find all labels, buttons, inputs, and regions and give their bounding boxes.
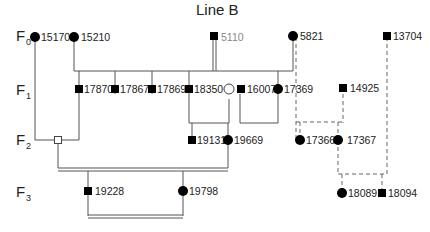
individual-16007[interactable]: 16007 [237,83,276,95]
male-filled-icon [148,85,156,93]
svg-text:17869: 17869 [157,83,186,95]
individual-18350[interactable]: 18350 [185,83,223,95]
male-unfilled-icon [55,137,62,144]
svg-text:17870: 17870 [84,83,113,95]
male-filled-icon [210,32,218,40]
male-filled-icon [75,85,83,93]
individual-15170[interactable]: 15170 [30,31,70,43]
svg-text:2: 2 [26,141,31,151]
svg-text:19669: 19669 [234,134,263,146]
male-filled-icon [237,85,245,93]
svg-text:19131: 19131 [197,134,226,146]
svg-text:13704: 13704 [393,30,422,42]
svg-text:3: 3 [26,193,31,203]
individual-14925[interactable]: 14925 [339,82,379,94]
female-filled-icon [223,135,233,145]
female-filled-icon [273,84,283,94]
pedigree-lines [35,37,293,218]
individual-18094[interactable]: 18094 [378,187,417,199]
male-filled-icon [188,136,196,144]
svg-text:17367: 17367 [347,134,376,146]
male-filled-icon [378,189,386,197]
svg-text:16007: 16007 [247,83,276,95]
individual-5110[interactable]: 5110 [210,31,244,43]
female-filled-icon [30,32,40,42]
svg-text:18350: 18350 [194,83,223,95]
individual-18089[interactable]: 18089 [337,187,377,199]
svg-text:17867: 17867 [120,83,149,95]
individual-17869[interactable]: 17869 [148,83,186,95]
svg-text:15170: 15170 [41,31,70,43]
female-filled-icon [333,135,343,145]
individual-15210[interactable]: 15210 [69,31,110,43]
svg-text:F: F [16,183,25,200]
individual-f1-open-female[interactable] [224,84,234,94]
individual-17367[interactable]: 17367 [333,134,376,146]
svg-text:14925: 14925 [350,82,379,94]
svg-text:F: F [16,131,25,148]
svg-text:19798: 19798 [189,185,218,197]
individual-17870[interactable]: 17870 [75,83,113,95]
male-filled-icon [383,32,391,40]
individual-19228[interactable]: 19228 [84,185,124,197]
generation-label-f3: F3 [16,183,31,203]
svg-text:1: 1 [26,91,31,101]
female-filled-icon [69,32,79,42]
individual-13704[interactable]: 13704 [383,30,422,42]
svg-text:15210: 15210 [81,31,110,43]
svg-text:17366: 17366 [306,134,335,146]
svg-text:F: F [16,81,25,98]
svg-text:19228: 19228 [95,185,124,197]
generation-label-f2: F2 [16,131,31,151]
female-filled-icon [178,186,188,196]
male-filled-icon [339,84,347,92]
individual-17369[interactable]: 17369 [273,83,313,95]
svg-text:5110: 5110 [221,31,244,43]
pedigree-dashed-lines [296,37,387,192]
individual-19131[interactable]: 19131 [188,134,226,146]
male-filled-icon [84,187,92,195]
svg-text:18094: 18094 [388,187,417,199]
diagram-title: Line B [196,1,239,18]
individual-17366[interactable]: 17366 [295,134,335,146]
pedigree-diagram: Line B F0 F1 F2 F3 [0,0,430,232]
female-filled-icon [288,31,298,41]
svg-text:5821: 5821 [300,30,324,42]
svg-text:17369: 17369 [284,83,313,95]
male-filled-icon [185,85,193,93]
individual-5821[interactable]: 5821 [288,30,324,42]
individual-f2-open-male[interactable] [55,137,62,144]
svg-text:F: F [16,27,25,44]
svg-text:18089: 18089 [348,187,377,199]
individual-19669[interactable]: 19669 [223,134,263,146]
male-filled-icon [111,85,119,93]
female-filled-icon [295,135,305,145]
individual-17867[interactable]: 17867 [111,83,149,95]
generation-label-f0: F0 [16,27,31,47]
individual-19798[interactable]: 19798 [178,185,218,197]
female-unfilled-icon [224,84,234,94]
female-filled-icon [337,188,347,198]
generation-label-f1: F1 [16,81,31,101]
